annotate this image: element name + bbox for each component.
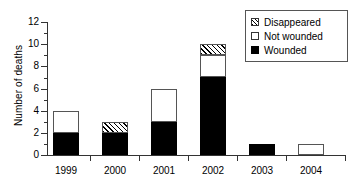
legend-swatch-wounded-icon: [251, 46, 259, 54]
x-axis-tick-4: [286, 156, 287, 161]
bar-2001[interactable]: [151, 89, 177, 156]
y-axis-minor-tick-7: [44, 78, 47, 79]
legend-item-disappeared[interactable]: Disappeared: [251, 15, 342, 29]
segment-wounded: [249, 144, 275, 155]
x-axis-tick-5: [345, 156, 346, 161]
segment-not-wounded: [151, 89, 177, 122]
x-axis-tick-2: [188, 156, 189, 161]
y-axis-line: [47, 22, 48, 156]
legend-swatch-disappeared-icon: [251, 18, 259, 26]
x-axis-label-2004: 2004: [289, 165, 333, 176]
segment-not-wounded: [298, 144, 324, 155]
legend-item-not-wounded[interactable]: Not wounded: [251, 29, 342, 43]
y-axis-label-4: 4: [15, 106, 39, 116]
y-axis-label-0: 0: [15, 150, 39, 160]
y-axis-tick-2: [41, 133, 47, 134]
y-axis-minor-tick-1: [44, 144, 47, 145]
bar-2003[interactable]: [249, 144, 275, 155]
segment-not-wounded: [200, 55, 226, 77]
bar-1999[interactable]: [53, 111, 79, 155]
x-axis-label-2002: 2002: [191, 165, 235, 176]
segment-wounded: [200, 77, 226, 155]
y-axis-tick-6: [41, 89, 47, 90]
segment-disappeared: [102, 122, 128, 133]
y-axis-label-12: 12: [15, 17, 39, 27]
legend-label-wounded: Wounded: [264, 45, 307, 56]
y-axis-tick-4: [41, 111, 47, 112]
y-axis-tick-12: [41, 22, 47, 23]
y-axis-minor-tick-3: [44, 122, 47, 123]
segment-wounded: [53, 133, 79, 155]
legend-item-wounded[interactable]: Wounded: [251, 43, 342, 57]
bar-2002[interactable]: [200, 44, 226, 155]
x-axis-line: [47, 155, 346, 156]
y-axis-label-6: 6: [15, 84, 39, 94]
x-axis-tick-1: [139, 156, 140, 161]
legend-swatch-not-wounded-icon: [251, 32, 259, 40]
bar-2004[interactable]: [298, 144, 324, 155]
x-axis-label-2000: 2000: [93, 165, 137, 176]
y-axis-minor-tick-5: [44, 100, 47, 101]
y-axis-label-8: 8: [15, 61, 39, 71]
x-axis-label-2003: 2003: [240, 165, 284, 176]
y-axis-minor-tick-9: [44, 55, 47, 56]
legend: Disappeared Not wounded Wounded: [245, 10, 348, 62]
segment-not-wounded: [53, 111, 79, 133]
x-axis-tick-0: [90, 156, 91, 161]
x-axis-tick-3: [237, 156, 238, 161]
y-axis-tick-8: [41, 66, 47, 67]
bar-2000[interactable]: [102, 122, 128, 155]
segment-wounded: [102, 133, 128, 155]
y-axis-minor-tick-11: [44, 33, 47, 34]
x-axis-label-2001: 2001: [142, 165, 186, 176]
y-axis-tick-10: [41, 44, 47, 45]
legend-label-disappeared: Disappeared: [264, 17, 321, 28]
y-axis-label-10: 10: [15, 39, 39, 49]
x-axis-label-1999: 1999: [44, 165, 88, 176]
legend-label-not-wounded: Not wounded: [264, 31, 323, 42]
bar-chart: Number of deaths 12 10 8 6 4 2 0 1999 20…: [0, 0, 355, 191]
segment-disappeared: [200, 44, 226, 55]
y-axis-label-2: 2: [15, 128, 39, 138]
segment-wounded: [151, 122, 177, 155]
